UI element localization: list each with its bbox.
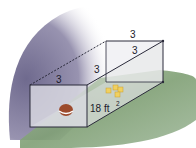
label-area-exponent: 2 <box>116 100 120 107</box>
label-back-top: 3 <box>130 29 136 40</box>
label-side-top: 3 <box>94 64 100 75</box>
label-diagonal: 3 <box>132 45 138 56</box>
label-front-top: 3 <box>56 74 62 85</box>
diagram-canvas: 3 3 3 3 18 ft 2 <box>0 0 196 148</box>
label-area: 18 ft <box>90 103 110 114</box>
ball-icon <box>59 104 73 116</box>
